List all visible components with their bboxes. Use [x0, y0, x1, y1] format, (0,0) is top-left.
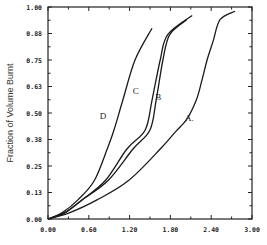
y-tick-label: 0.00	[26, 216, 42, 224]
curve-c	[48, 16, 192, 220]
curve-label-a: A.	[185, 113, 194, 123]
y-tick-label: 0.38	[26, 136, 42, 144]
x-tick-label: 1.20	[122, 226, 138, 234]
chart: Fraction of Volume Burnt 0.000.601.201.8…	[0, 0, 267, 245]
curve-labels: A.BCD	[100, 86, 194, 124]
curve-label-c: C	[133, 86, 139, 96]
y-tick-label: 0.13	[26, 189, 42, 197]
axis-ticks: 0.000.601.201.802.403.000.000.130.250.38…	[26, 4, 260, 235]
curves	[48, 11, 235, 219]
curve-label-b: B	[155, 92, 161, 102]
y-tick-label: 0.63	[26, 83, 42, 91]
curve-d	[48, 28, 152, 219]
curve-a	[48, 11, 235, 219]
y-axis-title: Fraction of Volume Burnt	[5, 63, 15, 163]
curve-label-d: D	[100, 111, 107, 121]
y-tick-label: 0.75	[26, 57, 42, 65]
x-tick-label: 1.80	[163, 226, 179, 234]
y-tick-label: 0.50	[26, 110, 42, 118]
y-tick-label: 0.88	[26, 30, 42, 38]
x-tick-label: 2.40	[203, 226, 219, 234]
x-tick-label: 0.00	[40, 226, 56, 234]
y-tick-label: 1.00	[26, 4, 42, 12]
y-tick-label: 0.25	[26, 163, 42, 171]
x-tick-label: 0.60	[81, 226, 97, 234]
x-tick-label: 3.00	[244, 226, 260, 234]
